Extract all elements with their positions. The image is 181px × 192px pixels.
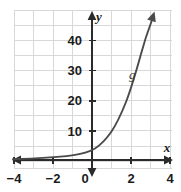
x-axis-label: x (163, 140, 171, 155)
curve-label-g: g (129, 67, 136, 82)
exponential-function-graph: 10 20 30 40 −4 −2 0 2 4 y x g (0, 0, 181, 192)
y-axis-arrow-down (88, 168, 97, 177)
y-tick-label-40: 40 (68, 33, 82, 48)
y-tick-label-30: 30 (68, 63, 82, 78)
y-axis-label: y (94, 9, 102, 24)
x-tick-label-2: 2 (127, 171, 134, 186)
chart-figure: 10 20 30 40 −4 −2 0 2 4 y x g (0, 0, 181, 192)
y-tick-label-10: 10 (68, 124, 82, 139)
x-tick-label-minus4: −4 (7, 171, 23, 186)
x-tick-label-minus2: −2 (46, 171, 61, 186)
y-tick-label-20: 20 (68, 93, 82, 108)
x-tick-label-zero: 0 (81, 171, 88, 186)
x-tick-label-4: 4 (166, 171, 174, 186)
